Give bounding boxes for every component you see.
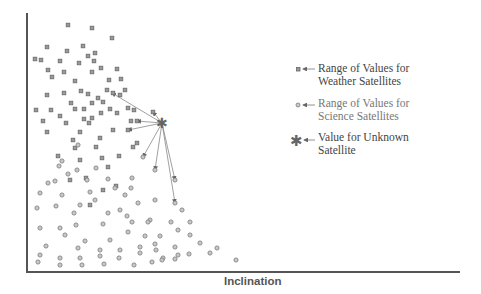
science-satellite-point <box>143 234 147 238</box>
science-satellite-point <box>98 254 102 258</box>
science-satellite-point <box>160 258 164 262</box>
x-axis-label: Inclination <box>224 275 282 287</box>
legend-unknown-line2: Satellite <box>318 144 409 157</box>
legend: ✱ <box>290 68 315 151</box>
weather-satellite-point <box>126 128 130 132</box>
science-satellite-point <box>130 220 134 224</box>
science-satellite-point <box>44 244 48 248</box>
science-satellite-point <box>150 260 154 264</box>
weather-satellite-point <box>86 54 90 58</box>
science-satellite-point <box>74 223 78 227</box>
scatter-chart: ✱ ✱ <box>0 0 481 294</box>
science-satellite-point <box>169 220 173 224</box>
weather-satellite-point <box>73 79 77 83</box>
science-satellite-point <box>102 262 106 266</box>
science-satellite-point <box>173 245 177 249</box>
weather-satellite-point <box>100 156 104 160</box>
weather-satellite-point <box>49 108 53 112</box>
science-satellite-point <box>106 177 110 181</box>
science-satellite-point <box>180 208 184 212</box>
unknown-satellite-point: ✱ <box>156 115 168 131</box>
science-satellite-point <box>80 263 84 267</box>
weather-satellite-point <box>94 145 98 149</box>
science-satellite-point <box>138 245 142 249</box>
annotation-arrow <box>162 123 175 203</box>
science-satellite-point <box>176 228 180 232</box>
science-satellite-point <box>234 258 238 262</box>
science-satellite-point <box>123 193 127 197</box>
weather-satellite-point <box>39 58 43 62</box>
weather-satellite-point <box>62 70 66 74</box>
weather-satellite-point <box>58 59 62 63</box>
legend-label-weather: Range of Values for Weather Satellites <box>318 62 409 88</box>
science-satellite-point <box>108 238 112 242</box>
weather-satellite-point <box>111 128 115 132</box>
weather-satellite-point <box>88 203 92 207</box>
weather-satellite-point <box>90 70 94 74</box>
science-satellite-point <box>106 211 110 215</box>
weather-satellite-point <box>73 107 77 111</box>
science-satellite-point <box>138 251 142 255</box>
science-satellite-point <box>117 256 121 260</box>
science-satellite-point <box>153 242 157 246</box>
science-satellite-point <box>88 190 92 194</box>
annotation-arrow <box>112 93 162 123</box>
weather-satellite-point <box>126 106 130 110</box>
weather-satellite-point <box>131 145 135 149</box>
weather-satellite-point <box>82 107 86 111</box>
weather-satellite-point <box>119 77 123 81</box>
weather-satellite-point <box>132 108 136 112</box>
science-satellite-point <box>113 186 117 190</box>
weather-satellite-point <box>45 93 49 97</box>
science-satellite-point <box>60 193 64 197</box>
weather-satellite-point <box>50 75 54 79</box>
weather-satellite-point <box>135 141 139 145</box>
weather-satellite-point <box>106 165 110 169</box>
weather-satellite-point <box>68 178 72 182</box>
weather-satellite-point <box>90 26 94 30</box>
science-satellite-point <box>188 220 192 224</box>
weather-satellite-point <box>45 130 49 134</box>
science-satellite-point <box>132 263 136 267</box>
science-satellite-point <box>173 178 177 182</box>
science-satellite-point <box>54 204 58 208</box>
science-satellite-point <box>94 166 98 170</box>
weather-satellite-point <box>82 117 86 121</box>
science-satellite-point <box>38 253 42 257</box>
science-satellite-point <box>173 201 177 205</box>
weather-satellite-point <box>99 111 103 115</box>
weather-satellite-point <box>71 138 75 142</box>
science-satellite-point <box>76 246 80 250</box>
science-satellite-point <box>46 181 50 185</box>
weather-satellite-point <box>90 116 94 120</box>
science-satellite-point <box>136 201 140 205</box>
science-satellite-point <box>118 208 122 212</box>
weather-satellite-point <box>129 119 133 123</box>
legend-label-unknown: Value for Unknown Satellite <box>318 131 409 157</box>
weather-satellite-point <box>77 61 81 65</box>
data-points: ✱ <box>33 23 238 267</box>
weather-satellite-point <box>87 121 91 125</box>
science-satellite-point <box>153 168 157 172</box>
weather-satellite-point <box>96 96 100 100</box>
science-satellite-point <box>78 256 82 260</box>
weather-satellite-point <box>105 88 109 92</box>
science-satellite-point <box>118 248 122 252</box>
science-satellite-point <box>129 186 133 190</box>
weather-satellite-point <box>79 89 83 93</box>
legend-unknown-line1: Value for Unknown <box>318 131 409 144</box>
weather-satellite-point <box>78 130 82 134</box>
weather-satellite-point <box>34 108 38 112</box>
weather-satellite-point <box>46 68 50 72</box>
weather-satellite-point <box>101 100 105 104</box>
science-satellite-point <box>85 178 89 182</box>
weather-satellite-point <box>81 44 85 48</box>
legend-label-science: Range of Values for Science Satellites <box>318 97 409 123</box>
science-satellite-point <box>36 260 40 264</box>
weather-satellite-point <box>62 91 66 95</box>
weather-satellite-point <box>86 92 90 96</box>
science-satellite-point <box>173 257 177 261</box>
science-satellite-point <box>63 233 67 237</box>
weather-satellite-point <box>123 88 127 92</box>
science-satellite-point <box>35 206 39 210</box>
